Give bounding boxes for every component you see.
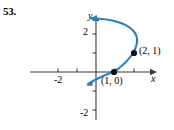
point-marker-2-1 <box>131 50 137 56</box>
y-tick-label-neg2: -2 <box>80 107 88 118</box>
x-tick-label-neg2: -2 <box>54 74 62 85</box>
y-axis-label: y <box>88 10 92 21</box>
x-axis-label: x <box>151 73 155 84</box>
y-tick-label-2: 2 <box>83 26 88 37</box>
point-label-2-1: (2, 1) <box>139 45 161 56</box>
figure-container: 53. y x -2 2 -2 (2, 1) (1, 0) <box>0 0 174 130</box>
curve-arrowhead-start <box>86 81 94 87</box>
point-label-1-0: (1, 0) <box>101 75 123 86</box>
